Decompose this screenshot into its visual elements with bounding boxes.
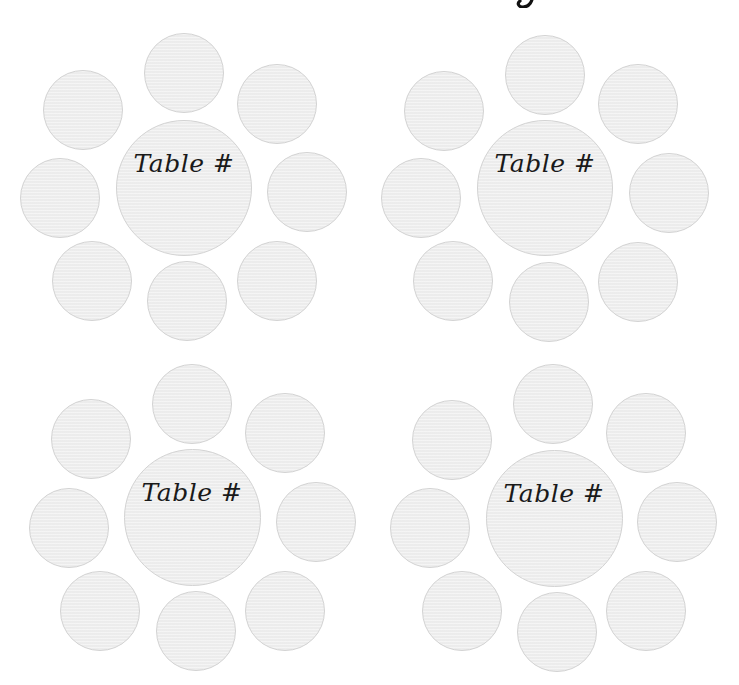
table-circle: Table # xyxy=(486,450,623,587)
seat-circle-top-left xyxy=(412,400,492,480)
seat-circle-bottom-right xyxy=(606,571,686,651)
table-group: Table # xyxy=(0,0,739,685)
seat-circle-left xyxy=(390,488,470,568)
seat-circle-bottom-left xyxy=(422,571,502,651)
table-label: Table # xyxy=(504,479,605,508)
seat-circle-right xyxy=(637,482,717,562)
seat-circle-top-right xyxy=(606,393,686,473)
seat-circle-top xyxy=(513,364,593,444)
seat-circle-bottom xyxy=(517,592,597,672)
